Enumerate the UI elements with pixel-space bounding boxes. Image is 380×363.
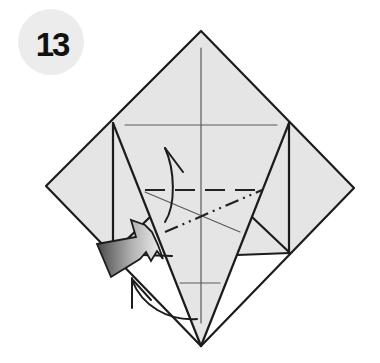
origami-diagram: 13 bbox=[0, 0, 380, 363]
step-number: 13 bbox=[36, 26, 70, 63]
paper-surface bbox=[46, 31, 354, 346]
step-badge: 13 bbox=[18, 9, 84, 75]
